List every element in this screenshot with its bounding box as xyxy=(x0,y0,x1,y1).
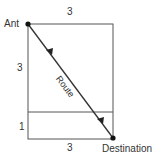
destination-point xyxy=(110,135,115,140)
destination-label: Destination xyxy=(102,144,152,154)
bottom-width-label: 3 xyxy=(67,143,73,153)
top-width-label: 3 xyxy=(67,7,73,17)
ant-label: Ant xyxy=(4,19,19,29)
route-diagram xyxy=(0,0,154,163)
ant-point xyxy=(25,21,30,26)
lower-height-label: 1 xyxy=(19,122,25,132)
upper-height-label: 3 xyxy=(17,63,23,73)
